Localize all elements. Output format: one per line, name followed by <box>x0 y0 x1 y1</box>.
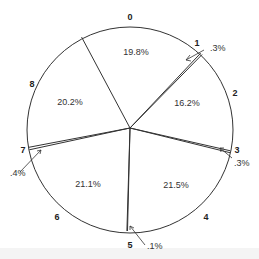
slice-number-1: 1 <box>194 38 199 48</box>
slice-pct-8: 20.2% <box>57 97 83 107</box>
slice-number-7: 7 <box>20 145 25 155</box>
pie-spokes <box>29 37 231 231</box>
slice-number-3: 3 <box>234 145 239 155</box>
slice-number-0: 0 <box>127 12 132 22</box>
slice-pct-6: 21.1% <box>75 179 101 189</box>
slice-number-8: 8 <box>29 79 34 89</box>
callout-label-3: .3% <box>234 158 250 168</box>
callout-label-1: .3% <box>210 43 226 53</box>
slice-boundary-6 <box>127 128 130 231</box>
slice-number-4: 4 <box>203 212 208 222</box>
slice-boundary-2 <box>130 55 202 129</box>
pie-chart: 0 1 2 3 4 5 6 7 8 19.8% 16.2% 21.5% 21.1… <box>0 0 259 259</box>
slice-pct-4: 21.5% <box>163 180 189 190</box>
callout-label-5: .1% <box>147 241 163 251</box>
slice-boundary-8 <box>29 128 130 147</box>
callout-label-7: .4% <box>10 168 26 178</box>
slice-boundary-4 <box>130 128 230 153</box>
slice-number-5: 5 <box>127 240 132 250</box>
slice-pct-0: 19.8% <box>123 47 149 57</box>
slice-pct-2: 16.2% <box>174 98 200 108</box>
slice-number-2: 2 <box>232 88 237 98</box>
slice-number-6: 6 <box>54 212 59 222</box>
